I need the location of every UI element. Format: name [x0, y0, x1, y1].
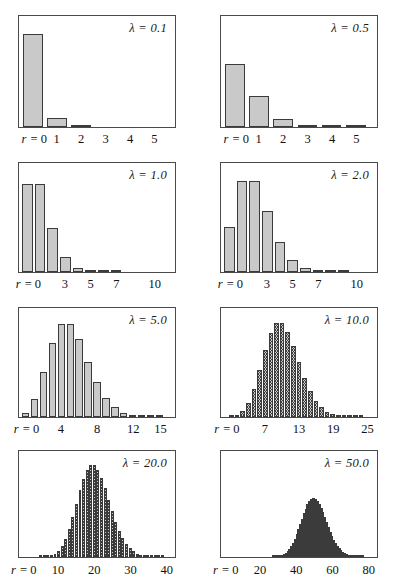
- bar-series: [223, 24, 375, 127]
- bar: [139, 555, 142, 557]
- x-tick-label: 4: [58, 420, 64, 438]
- axis-equals-zero: = 0: [224, 277, 244, 291]
- bar: [60, 257, 70, 272]
- bar: [22, 413, 29, 417]
- bar: [302, 378, 307, 417]
- bar: [313, 270, 323, 272]
- x-tick-label: 7: [262, 420, 268, 438]
- bar-series: [223, 459, 375, 557]
- bar: [275, 242, 285, 272]
- bar: [346, 125, 366, 127]
- x-tick-label: 5: [87, 275, 93, 293]
- bar: [325, 412, 330, 417]
- bar: [86, 470, 89, 557]
- bar: [102, 398, 109, 417]
- x-axis-tick-labels: r = 012345: [202, 130, 404, 148]
- x-tick-label: 3: [62, 275, 68, 293]
- bar: [252, 389, 257, 417]
- bar: [291, 346, 296, 417]
- axis-equals-zero: = 0: [20, 422, 40, 436]
- bar: [156, 415, 163, 417]
- bar: [58, 324, 65, 417]
- bar: [111, 270, 121, 272]
- plot-frame: λ = 5.0: [18, 307, 176, 418]
- bar: [300, 268, 310, 272]
- bar: [154, 555, 157, 557]
- x-axis-tick-labels: r = 035710: [0, 275, 202, 293]
- x-tick-label: 40: [290, 561, 303, 579]
- plot-frame: λ = 2.0: [220, 162, 378, 273]
- x-tick-label: 3: [304, 130, 310, 148]
- x-tick-label: r = 0: [213, 561, 238, 579]
- bar: [235, 415, 240, 417]
- bar: [225, 64, 245, 127]
- bar: [314, 401, 319, 417]
- chart-panel-lambda-10: λ = 10.0r = 07131925: [202, 295, 404, 440]
- bar: [118, 531, 121, 557]
- bar: [111, 407, 118, 417]
- plot-frame: λ = 10.0: [220, 307, 378, 418]
- axis-equals-zero: = 0: [229, 132, 249, 146]
- bar: [161, 555, 164, 557]
- x-tick-label: 4: [329, 130, 335, 148]
- bar: [237, 181, 247, 272]
- bar: [68, 529, 71, 557]
- bar: [319, 407, 324, 417]
- bar: [31, 399, 38, 417]
- x-tick-label: 20: [88, 561, 101, 579]
- bar: [246, 403, 251, 417]
- bar: [157, 555, 160, 557]
- x-tick-label: 7: [315, 275, 321, 293]
- bar: [47, 228, 57, 272]
- bar: [297, 362, 302, 417]
- bar: [129, 548, 132, 557]
- bar: [64, 539, 67, 557]
- bar: [146, 555, 149, 557]
- chart-panel-lambda-50: λ = 50.0r = 020406080: [202, 440, 404, 582]
- bar: [269, 333, 274, 417]
- bar: [111, 511, 114, 557]
- plot-frame: λ = 0.1: [18, 15, 176, 128]
- bar: [40, 372, 47, 417]
- bar: [54, 554, 57, 557]
- bar: [75, 504, 78, 557]
- bar: [43, 555, 46, 557]
- bar: [71, 517, 74, 557]
- axis-equals-zero: = 0: [27, 132, 47, 146]
- bar: [46, 555, 49, 557]
- x-tick-label: r = 0: [214, 420, 239, 438]
- chart-panel-lambda-1: λ = 1.0r = 035710: [0, 150, 202, 295]
- bar: [330, 414, 335, 417]
- bar-series: [223, 171, 375, 272]
- x-tick-label: 8: [94, 420, 100, 438]
- bar: [39, 555, 42, 557]
- bar: [93, 382, 100, 417]
- x-tick-label: 2: [280, 130, 286, 148]
- bar-series: [21, 24, 173, 127]
- bar: [47, 118, 67, 127]
- x-tick-label: 3: [102, 130, 108, 148]
- bar: [249, 96, 269, 127]
- bar: [125, 544, 128, 557]
- bar: [50, 555, 53, 557]
- x-tick-label: r = 0: [16, 275, 41, 293]
- bar: [298, 125, 318, 127]
- bar: [71, 125, 91, 127]
- x-axis-tick-labels: r = 035710: [202, 275, 404, 293]
- bar: [129, 415, 136, 417]
- bar: [338, 270, 348, 272]
- bar: [257, 370, 262, 417]
- x-tick-label: r = 0: [22, 130, 47, 148]
- x-tick-label: 15: [154, 420, 167, 438]
- bar: [336, 415, 341, 417]
- bar: [229, 415, 234, 417]
- x-tick-label: 19: [327, 420, 340, 438]
- bar: [107, 500, 110, 557]
- plot-frame: λ = 50.0: [220, 450, 378, 558]
- bar: [143, 555, 146, 557]
- axis-equals-zero: = 0: [219, 563, 239, 577]
- x-tick-label: 12: [127, 420, 140, 438]
- bar: [84, 362, 91, 417]
- bar: [249, 181, 259, 272]
- bar: [57, 551, 60, 557]
